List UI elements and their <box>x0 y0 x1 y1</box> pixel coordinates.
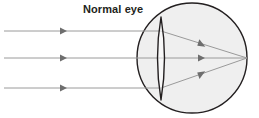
normal-eye-figure: Normal eye <box>0 0 259 118</box>
eye-ray-diagram <box>0 0 259 118</box>
figure-title: Normal eye <box>83 3 143 16</box>
arrow-head-icon-incoming-middle <box>60 55 67 62</box>
incoming-ray-arrowheads <box>60 28 67 92</box>
lens-shape <box>158 17 165 100</box>
arrow-head-icon-incoming-upper <box>60 28 67 35</box>
arrow-head-icon-incoming-lower <box>60 85 67 92</box>
